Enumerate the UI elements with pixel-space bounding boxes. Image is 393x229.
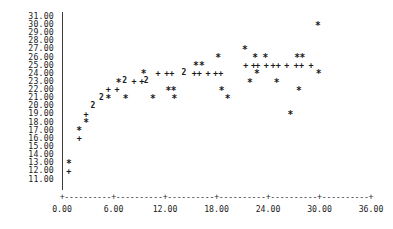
y-axis-tick-labels: 31.0030.0029.0028.0027.0026.0025.0024.00… [8,0,54,229]
x-tick-label: 36.00 [349,203,393,215]
data-point: + [105,85,112,93]
data-point: * [171,95,178,103]
data-point: * [287,111,294,119]
y-tick-label: 11.00 [8,175,54,183]
data-point: + [131,77,138,85]
data-point: + [204,69,211,77]
data-point: * [215,54,222,62]
data-point: 2 [89,102,96,110]
data-point: * [83,119,90,127]
data-point: * [246,79,253,87]
data-point: + [242,61,249,69]
scatter-plot: 31.0030.0029.0028.0027.0026.0025.0024.00… [0,0,393,229]
x-tick-label: 18.00 [195,203,239,215]
data-point: * [315,70,322,78]
data-point: * [314,22,321,30]
data-point: * [273,79,280,87]
data-point: + [65,167,72,175]
x-axis-tick-labels: 0.006.0012.0018.0024.0030.0036.00 [0,203,393,215]
data-point: * [241,46,248,54]
data-point: + [283,61,290,69]
data-point: * [149,95,156,103]
x-axis-line: +----------+----------+----------+------… [60,193,390,202]
data-point: 2 [180,69,187,77]
data-point: + [307,61,314,69]
data-point: + [217,69,224,77]
x-tick-label: 6.00 [92,203,136,215]
data-point: * [253,70,260,78]
y-axis-line [62,12,63,190]
data-point: * [224,95,231,103]
x-tick-label: 12.00 [143,203,187,215]
data-point: 2 [121,77,128,85]
data-point: * [105,95,112,103]
x-tick-label: 30.00 [298,203,342,215]
data-point: * [299,54,306,62]
data-point: + [168,69,175,77]
data-point: * [252,54,259,62]
data-point: + [76,134,83,142]
data-point: * [122,95,129,103]
x-tick-label: 24.00 [246,203,290,215]
data-point: + [275,61,282,69]
x-tick-label: 0.00 [40,203,84,215]
data-point: * [295,87,302,95]
data-point: + [155,69,162,77]
data-point: * [140,70,147,78]
